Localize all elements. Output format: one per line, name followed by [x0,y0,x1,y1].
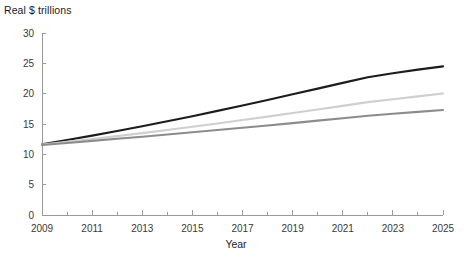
series-line-medium-growth-projection [42,94,443,145]
y-tick-label: 30 [23,28,35,39]
y-tick-label: 0 [28,210,34,221]
series-line-high-growth-projection [42,66,443,144]
series-group [42,66,443,145]
y-tick-label: 25 [23,58,35,69]
line-chart-plot: 051015202530 200920112013201520172019202… [0,0,464,254]
x-tick-label: 2019 [282,223,305,234]
y-tick-label: 5 [28,179,34,190]
x-tick-label: 2011 [81,223,103,234]
x-tick-label: 2013 [131,223,154,234]
y-tick-label-group: 051015202530 [23,28,35,221]
y-tick-label: 20 [23,88,35,99]
chart-figure: Real $ trillions 051015202530 2009201120… [0,0,464,254]
axis-lines [42,33,443,215]
y-tick-label: 15 [23,119,35,130]
series-line-low-growth-projection [42,110,443,145]
x-tick-mark-group [42,210,443,215]
y-tick-label: 10 [23,149,35,160]
x-tick-label: 2021 [332,223,355,234]
y-tick-mark-group [42,33,46,215]
x-tick-label: 2015 [181,223,204,234]
x-tick-label: 2017 [231,223,254,234]
x-tick-label: 2023 [382,223,405,234]
x-axis-title: Year [225,238,247,250]
x-tick-label: 2025 [432,223,455,234]
x-tick-label-group: 200920112013201520172019202120232025 [31,223,455,234]
x-tick-label: 2009 [31,223,54,234]
